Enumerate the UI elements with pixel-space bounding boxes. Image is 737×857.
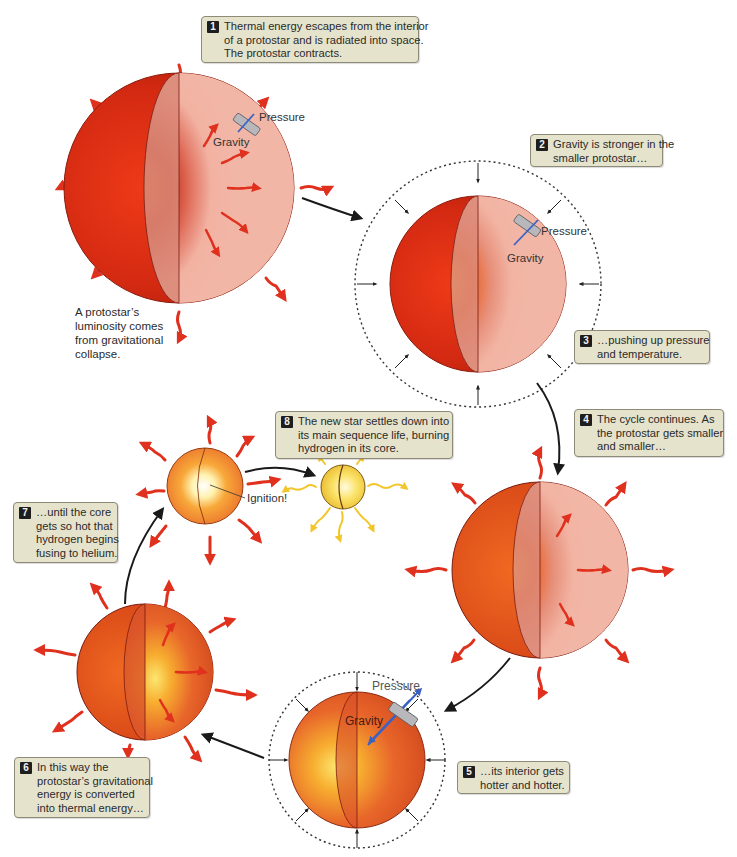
callout-text: …its interior gets [480, 765, 563, 779]
flow-arrow-2 [537, 383, 559, 472]
callout-step-3: 3 …pushing up pressure and temperature. [574, 330, 710, 364]
callout-text: of a protostar and is radiated into spac… [224, 34, 412, 48]
step-badge: 3 [580, 335, 592, 347]
gravity-label-2: Gravity [507, 252, 544, 264]
callout-text: The protostar contracts. [224, 47, 412, 61]
step-badge: 1 [207, 21, 219, 33]
pressure-label-1: Pressure [259, 111, 305, 123]
callout-step-5: 5 …its interior gets hotter and hotter. [457, 761, 570, 794]
callout-text: The cycle continues. As [597, 413, 717, 427]
flow-arrow-5 [125, 510, 162, 604]
callout-step-8: 8 The new star settles down into its mai… [275, 411, 453, 459]
pressure-label-3: Pressure [372, 679, 420, 693]
callout-text: gets so hot that [36, 520, 111, 534]
callout-step-6: 6 In this way the protostar’s gravitatio… [14, 757, 150, 818]
callout-step-7: 7 …until the core gets so hot that hydro… [13, 502, 118, 563]
ignition-label: Ignition! [247, 492, 287, 504]
callout-text: Thermal energy escapes from the interior [224, 20, 412, 34]
callout-text: smaller protostar… [553, 152, 656, 166]
stage-thermal-protostar [38, 584, 253, 759]
step-badge: 5 [463, 766, 475, 778]
note-text: luminosity comes [75, 319, 163, 333]
callout-text: and smaller… [597, 440, 717, 454]
callout-text: hydrogen in its core. [298, 442, 446, 456]
step-badge: 2 [536, 139, 548, 151]
callout-step-2: 2 Gravity is stronger in the smaller pro… [530, 134, 663, 167]
callout-text: its main sequence life, burning [298, 429, 446, 443]
pressure-label-2: Pressure [541, 225, 587, 237]
stage-compressed-protostar: Pressure Gravity [355, 161, 601, 407]
callout-text: hotter and hotter. [480, 779, 563, 793]
callout-text: fusing to helium. [36, 547, 111, 561]
stage-main-sequence-star [284, 456, 406, 540]
callout-step-1: 1 Thermal energy escapes from the interi… [201, 16, 419, 63]
callout-text: Gravity is stronger in the [553, 138, 656, 152]
step-badge: 8 [281, 416, 293, 428]
callout-text: In this way the [37, 761, 143, 775]
flow-arrow-3 [447, 658, 510, 710]
callout-text: …pushing up pressure [597, 334, 703, 348]
stage-large-protostar: Pressure Gravity [59, 65, 330, 340]
gravity-label-3: Gravity [345, 714, 383, 728]
flow-arrow-1 [302, 198, 360, 218]
step-badge: 4 [580, 414, 592, 426]
callout-text: the protostar gets smaller [597, 427, 717, 441]
callout-text: energy is converted [37, 788, 143, 802]
note-text: collapse. [75, 347, 163, 361]
step-badge: 7 [19, 507, 31, 519]
stage-contracting-protostar [409, 450, 670, 696]
callout-text: protostar’s gravitational [37, 775, 143, 789]
luminosity-note: A protostar’s luminosity comes from grav… [75, 305, 163, 361]
callout-text: into thermal energy… [37, 802, 143, 816]
callout-text: The new star settles down into [298, 415, 446, 429]
callout-text: and temperature. [597, 348, 703, 362]
note-text: A protostar’s [75, 305, 163, 319]
stage-igniting-star: Ignition! [140, 419, 287, 561]
flow-arrow-4 [204, 735, 264, 758]
callout-text: hydrogen begins [36, 533, 111, 547]
note-text: from gravitational [75, 333, 163, 347]
callout-step-4: 4 The cycle continues. As the protostar … [574, 409, 724, 457]
flow-arrow-6 [245, 468, 313, 475]
step-badge: 6 [20, 762, 32, 774]
gravity-label-1: Gravity [213, 136, 250, 148]
stage-hot-compressed-protostar: Pressure Gravity [269, 672, 445, 848]
callout-text: …until the core [36, 506, 111, 520]
